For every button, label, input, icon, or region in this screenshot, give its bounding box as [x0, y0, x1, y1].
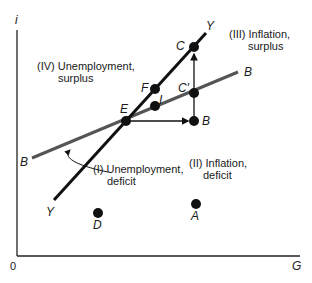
bb-start-label: B [20, 155, 28, 169]
bb-end-label: B [244, 65, 252, 79]
region-ii-line1: (II) Inflation, [189, 157, 247, 169]
point-c [189, 42, 199, 52]
point-a [191, 199, 201, 209]
y-axis-label: i [15, 13, 18, 27]
label-f: F [141, 81, 149, 95]
yy-end-label: Y [206, 19, 215, 33]
region-i-line1: (I) Unemployment, [93, 163, 183, 175]
point-e [121, 116, 131, 126]
diagram-canvas: i 0 G B B Y Y E F I C C′ B D A (IV) Unem… [0, 0, 312, 283]
region-iv-line1: (IV) Unemployment, [37, 60, 135, 72]
origin-label: 0 [10, 260, 16, 272]
label-d: D [93, 218, 102, 232]
point-d [93, 208, 103, 218]
yy-start-label: Y [46, 205, 55, 219]
region-iii-line2: surplus [248, 40, 284, 52]
point-c-prime [189, 88, 199, 98]
label-e: E [120, 102, 129, 116]
point-b [189, 116, 199, 126]
label-c: C [176, 39, 185, 53]
region-iv-line2: surplus [58, 72, 94, 84]
x-axis-label: G [292, 259, 301, 273]
region-ii-line2: deficit [203, 169, 232, 181]
region-i-line2: deficit [107, 175, 136, 187]
label-c-prime: C′ [178, 81, 190, 95]
region-iii-line1: (III) Inflation, [229, 28, 290, 40]
label-a: A [190, 209, 199, 223]
label-b: B [202, 114, 210, 128]
